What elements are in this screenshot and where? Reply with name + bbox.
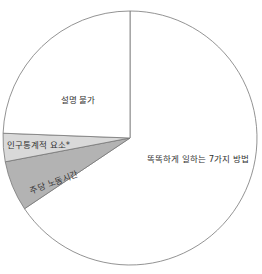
- pie-chart: 똑똑하게 일하는 7가지 방법 설명 불가 인구통계적 요소* 주당 노동시간: [0, 0, 262, 274]
- label-demographic: 인구통계적 요소*: [7, 140, 70, 150]
- label-unexplained: 설명 불가: [61, 95, 96, 105]
- label-main: 똑똑하게 일하는 7가지 방법: [147, 154, 249, 164]
- pie-slices: [3, 11, 257, 265]
- slice-unexplained: [3, 11, 130, 138]
